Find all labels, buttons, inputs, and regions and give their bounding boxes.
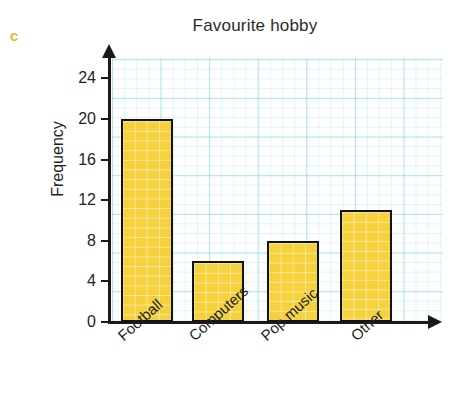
y-axis-line <box>108 56 111 323</box>
y-axis-tick-label: 0 <box>62 314 96 330</box>
y-axis-arrow-icon <box>102 44 116 58</box>
y-axis-tick-label: 8 <box>62 233 96 249</box>
bar <box>340 210 392 322</box>
y-axis-tick-label: 16 <box>62 152 96 168</box>
x-axis-arrow-icon <box>428 315 442 329</box>
y-axis-title: Frequency <box>49 99 67 219</box>
bar-chart-figure: c Favourite hobby Frequency 04812162024 … <box>0 0 462 420</box>
y-axis-tick-label: 4 <box>62 273 96 289</box>
bar <box>121 119 173 322</box>
y-axis-tick-label: 20 <box>62 111 96 127</box>
y-axis-tick-label: 24 <box>62 70 96 86</box>
y-axis-tick-label: 12 <box>62 192 96 208</box>
chart-title: Favourite hobby <box>0 16 462 36</box>
